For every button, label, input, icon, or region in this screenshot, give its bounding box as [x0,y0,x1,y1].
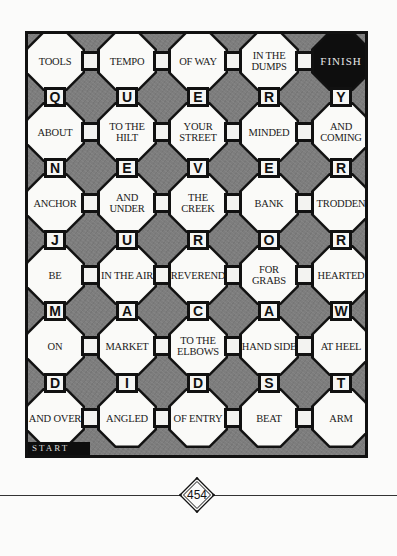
letter-cell: C [187,301,209,321]
word-cell: HAND SIDE [239,316,299,376]
word-cell: TEMPO [97,31,157,91]
letter-cell: E [116,158,138,178]
word-cell: REVEREND [168,245,228,305]
letter-cell-text: W [333,304,349,318]
word-cell-text: ANGLED [100,391,155,446]
word-cell-text: HAND SIDE [242,319,297,374]
word-cell-text: OF ENTRY [171,391,226,446]
letter-cell-text: V [190,161,206,175]
word-cell-text: AT HEEL [314,319,369,374]
word-cell: ANCHOR [25,173,85,233]
word-cell-text: ON [28,319,83,374]
letter-cell: E [187,87,209,107]
letter-cell-text: R [190,233,206,247]
letter-cell: Y [330,87,352,107]
word-cell: FOR GRABS [239,245,299,305]
letter-cell: D [187,373,209,393]
word-cell-text: REVEREND [171,248,226,303]
word-cell-text: TO THE ELBOWS [171,319,226,374]
word-cell: IN THE AIR [97,245,157,305]
word-cell: BANK [239,173,299,233]
letter-cell-text: U [119,233,135,247]
letter-cell: M [44,301,66,321]
word-cell-text: TOOLS [28,34,83,89]
word-cell-text: BEAT [242,391,297,446]
letter-cell: V [187,158,209,178]
word-cell: AND OVER [25,388,85,448]
letter-cell: S [258,373,280,393]
letter-cell-text: T [333,376,349,390]
letter-cell-text: R [333,233,349,247]
page-number: 454 [179,487,215,503]
letter-cell: D [44,373,66,393]
letter-cell: R [330,230,352,250]
word-cell-text: IN THE AIR [100,248,155,303]
word-cell-text: THE CREEK [171,176,226,231]
finish-label: FINISH [314,34,369,89]
letter-cell-text: C [190,304,206,318]
word-cell: IN THE DUMPS [239,31,299,91]
letter-cell-text: M [47,304,63,318]
word-cell-text: TEMPO [100,34,155,89]
letter-cell-text: A [119,304,135,318]
letter-cell: R [330,158,352,178]
word-cell-text: AND COMING [314,105,369,160]
word-cell: TOOLS [25,31,85,91]
word-cell-text: TRODDEN [314,176,369,231]
word-cell-text: MARKET [100,319,155,374]
letter-cell: N [44,158,66,178]
letter-cell: R [258,87,280,107]
word-cell: ON [25,316,85,376]
word-cell-text: TO THE HILT [100,105,155,160]
word-cell-text: HEARTED [314,248,369,303]
letter-cell-text: A [261,304,277,318]
letter-cell: U [116,87,138,107]
puzzle-board: TOOLSTEMPOOF WAYIN THE DUMPSFINISHABOUTT… [25,31,368,458]
word-cell-text: IN THE DUMPS [242,34,297,89]
letter-cell-text: E [190,90,206,104]
word-cell: ANGLED [97,388,157,448]
letter-cell-text: R [333,161,349,175]
word-cell: MARKET [97,316,157,376]
word-cell-text: BANK [242,176,297,231]
letter-cell: O [258,230,280,250]
letter-cell: J [44,230,66,250]
word-cell: BEAT [239,388,299,448]
letter-cell-text: S [261,376,277,390]
word-cell-text: AND UNDER [100,176,155,231]
word-cell-text: AND OVER [28,391,83,446]
letter-cell: E [258,158,280,178]
word-cell-text: MINDED [242,105,297,160]
letter-cell-text: J [47,233,63,247]
letter-cell-text: N [47,161,63,175]
letter-cell-text: E [261,161,277,175]
word-cell-text: OF WAY [171,34,226,89]
letter-cell-text: I [119,376,135,390]
letter-cell-text: Q [47,90,63,104]
word-cell-text: ARM [314,391,369,446]
word-cell: OF WAY [168,31,228,91]
word-cell: YOUR STREET [168,102,228,162]
letter-cell-text: D [47,376,63,390]
letter-cell-text: O [261,233,277,247]
word-cell: MINDED [239,102,299,162]
word-cell: ABOUT [25,102,85,162]
word-cell: OF ENTRY [168,388,228,448]
letter-cell-text: R [261,90,277,104]
letter-cell: I [116,373,138,393]
letter-cell: T [330,373,352,393]
word-cell: TO THE HILT [97,102,157,162]
letter-cell: A [116,301,138,321]
word-cell-text: BE [28,248,83,303]
letter-cell: Q [44,87,66,107]
word-cell: THE CREEK [168,173,228,233]
word-cell-text: ANCHOR [28,176,83,231]
letter-cell-text: Y [333,90,349,104]
letter-cell-text: U [119,90,135,104]
word-cell-text: YOUR STREET [171,105,226,160]
word-cell-text: FOR GRABS [242,248,297,303]
word-cell-text: ABOUT [28,105,83,160]
letter-cell: A [258,301,280,321]
start-label: START [28,442,90,455]
letter-cell-text: D [190,376,206,390]
